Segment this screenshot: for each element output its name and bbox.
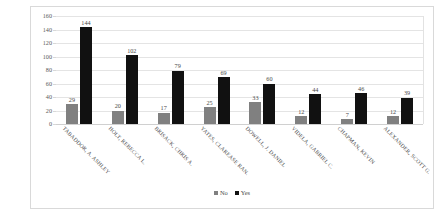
- x-axis-label: YATES, CLAREASE RAN.: [199, 126, 250, 177]
- plot-area: 020406080100120140160 291442010217792569…: [56, 16, 424, 124]
- legend-swatch-no-icon: [214, 191, 218, 195]
- bar-value-label: 69: [220, 70, 226, 76]
- bar-no[interactable]: 33: [249, 102, 261, 124]
- bar-value-label: 33: [252, 95, 258, 101]
- bar-no[interactable]: 29: [66, 104, 78, 124]
- bar-yes[interactable]: 144: [80, 27, 92, 124]
- bar-value-label: 29: [69, 97, 75, 103]
- x-axis-label: VIDELA, GABRIEL C.: [290, 126, 334, 170]
- bar-group: 746: [331, 16, 377, 124]
- bar-yes[interactable]: 102: [126, 55, 138, 124]
- bar-yes[interactable]: 44: [309, 94, 321, 124]
- x-axis-category-labels: TABADDOR, A. ASHLEYHOLT, REBECCA L.BRISA…: [56, 126, 424, 188]
- bar-group: 3360: [240, 16, 286, 124]
- x-axis-label: CHAPMAN, KEVIN: [336, 126, 376, 166]
- bar-yes[interactable]: 60: [263, 84, 275, 125]
- bar-value-label: 144: [81, 20, 90, 26]
- bar-value-label: 39: [404, 90, 410, 96]
- bar-group: 1244: [285, 16, 331, 124]
- y-axis-tick-label: 40: [46, 94, 52, 100]
- x-axis-label: TABADDOR, A. ASHLEY: [61, 126, 111, 176]
- y-axis-tick-label: 160: [43, 13, 52, 19]
- y-axis-tick-mark: [53, 124, 56, 125]
- chart-legend: No Yes: [31, 190, 433, 196]
- y-axis-tick-label: 60: [46, 80, 52, 86]
- y-axis-tick-label: 100: [43, 53, 52, 59]
- bar-no[interactable]: 20: [112, 111, 124, 125]
- bar-group: 1779: [148, 16, 194, 124]
- bar-yes[interactable]: 69: [218, 77, 230, 124]
- y-axis-tick-label: 0: [49, 121, 52, 127]
- legend-item-yes[interactable]: Yes: [235, 190, 250, 196]
- bar-no[interactable]: 12: [295, 116, 307, 124]
- bar-no[interactable]: 17: [158, 113, 170, 124]
- y-axis-tick-label: 20: [46, 107, 52, 113]
- bar-value-label: 20: [115, 103, 121, 109]
- bar-series-container: 291442010217792569336012447461239: [56, 16, 423, 124]
- legend-item-no[interactable]: No: [214, 190, 228, 196]
- x-axis-label: BRISACK, CHRIS A.: [153, 126, 194, 167]
- chart-frame: 020406080100120140160 291442010217792569…: [30, 6, 434, 209]
- bar-group: 1239: [377, 16, 423, 124]
- bar-yes[interactable]: 39: [401, 98, 413, 124]
- y-axis-tick-label: 140: [43, 26, 52, 32]
- y-axis-tick-label: 80: [46, 67, 52, 73]
- bar-value-label: 60: [266, 76, 272, 82]
- bar-value-label: 7: [346, 112, 349, 118]
- bar-value-label: 25: [206, 100, 212, 106]
- legend-label-yes: Yes: [241, 190, 250, 196]
- bar-no[interactable]: 25: [204, 107, 216, 124]
- bar-value-label: 44: [312, 87, 318, 93]
- bar-group: 20102: [102, 16, 148, 124]
- bar-yes[interactable]: 46: [355, 93, 367, 124]
- legend-swatch-yes-icon: [235, 191, 239, 195]
- bar-yes[interactable]: 79: [172, 71, 184, 124]
- bar-group: 2569: [194, 16, 240, 124]
- bar-no[interactable]: 12: [387, 116, 399, 124]
- bar-group: 29144: [56, 16, 102, 124]
- bar-value-label: 12: [390, 109, 396, 115]
- x-axis-label: HOLT, REBECCA L.: [107, 126, 147, 166]
- x-axis-label: DOWELL, J. DANIEL: [244, 126, 287, 169]
- bar-value-label: 12: [298, 109, 304, 115]
- bar-no[interactable]: 7: [341, 119, 353, 124]
- x-axis-label: ALEXANDER, SCOTT G.: [382, 126, 431, 175]
- legend-label-no: No: [220, 190, 228, 196]
- y-axis-tick-label: 120: [43, 40, 52, 46]
- bar-value-label: 17: [161, 105, 167, 111]
- bar-value-label: 79: [175, 63, 181, 69]
- bar-value-label: 102: [127, 48, 136, 54]
- bar-value-label: 46: [358, 86, 364, 92]
